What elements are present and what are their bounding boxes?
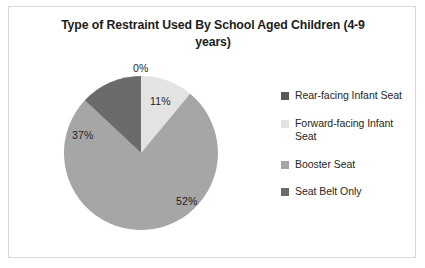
legend-item-seat-belt-only[interactable]: Seat Belt Only	[281, 185, 409, 199]
legend-label: Booster Seat	[295, 158, 355, 172]
pie-label-rear-facing-infant-seat: 0%	[133, 62, 149, 74]
legend-item-rear-facing-infant-seat[interactable]: Rear-facing Infant Seat	[281, 89, 409, 103]
legend-label: Seat Belt Only	[295, 185, 361, 199]
legend-swatch-icon	[281, 92, 289, 100]
legend-swatch-icon	[281, 120, 289, 128]
chart-frame: Type of Restraint Used By School Aged Ch…	[8, 6, 416, 258]
legend-item-booster-seat[interactable]: Booster Seat	[281, 158, 409, 172]
pie-label-seat-belt-only: 37%	[72, 129, 94, 141]
pie-label-booster-seat: 52%	[176, 195, 198, 207]
legend-label: Forward-facing Infant Seat	[295, 117, 409, 144]
plot-area: 0% 11% 52% 37% Rear-facing Infant Seat F…	[9, 7, 417, 259]
legend-label: Rear-facing Infant Seat	[295, 89, 402, 103]
pie-label-forward-facing-infant-seat: 11%	[150, 95, 171, 107]
legend-swatch-icon	[281, 188, 289, 196]
pie-chart	[61, 73, 221, 233]
chart-legend: Rear-facing Infant Seat Forward-facing I…	[281, 89, 409, 213]
legend-item-forward-facing-infant-seat[interactable]: Forward-facing Infant Seat	[281, 117, 409, 144]
legend-swatch-icon	[281, 161, 289, 169]
